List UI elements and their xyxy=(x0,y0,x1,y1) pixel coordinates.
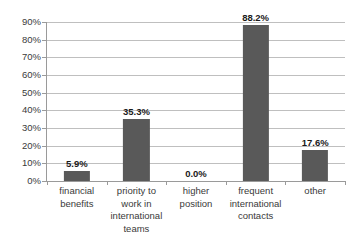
bar[interactable] xyxy=(242,25,268,181)
y-axis-tick-mark xyxy=(42,57,47,58)
bar-value-label: 88.2% xyxy=(242,13,269,23)
x-axis-tick-mark xyxy=(285,181,286,185)
x-axis-label-line: priority to xyxy=(107,185,167,198)
bar-slot[interactable]: 17.6% xyxy=(285,22,345,181)
y-axis-tick-label: 70% xyxy=(3,52,41,62)
x-axis-category-label: frequentinternationalcontacts xyxy=(226,185,286,223)
x-axis-category-label: financialbenefits xyxy=(47,185,107,210)
y-axis-tick-mark xyxy=(42,110,47,111)
y-axis-tick-label: 60% xyxy=(3,70,41,80)
bar-slot[interactable]: 5.9% xyxy=(47,22,107,181)
y-axis-tick-label: 20% xyxy=(3,141,41,151)
x-axis-label-line: other xyxy=(285,185,345,198)
bar-slot[interactable]: 35.3% xyxy=(107,22,167,181)
x-axis-label-line: benefits xyxy=(47,198,107,211)
plot-area: 5.9%35.3%0.0%88.2%17.6% xyxy=(47,22,345,181)
x-axis-label-line: contacts xyxy=(226,210,286,223)
x-axis-category-label: other xyxy=(285,185,345,198)
bar-chart: 0%10%20%30%40%50%60%70%80%90% 5.9%35.3%0… xyxy=(0,0,358,251)
y-axis-tick-mark xyxy=(42,75,47,76)
y-axis-tick-mark xyxy=(42,22,47,23)
x-axis-label-line: work in xyxy=(107,198,167,211)
x-axis-label-line: teams xyxy=(107,223,167,236)
x-axis-tick-mark xyxy=(107,181,108,185)
bar-value-label: 5.9% xyxy=(66,159,88,169)
y-axis-tick-label: 80% xyxy=(3,35,41,45)
y-axis-tick-mark xyxy=(42,146,47,147)
x-axis-tick-mark xyxy=(345,181,346,185)
y-axis-tick-label: 40% xyxy=(3,105,41,115)
x-axis-label-line: international xyxy=(107,210,167,223)
x-axis-label-line: financial xyxy=(47,185,107,198)
y-axis-tick-label: 90% xyxy=(3,17,41,27)
gridline xyxy=(47,181,345,182)
x-axis-category-label: priority towork ininternationalteams xyxy=(107,185,167,235)
x-axis-label-line: higher xyxy=(166,185,226,198)
x-axis-tick-mark xyxy=(226,181,227,185)
y-axis-tick-mark xyxy=(42,163,47,164)
x-axis-tick-mark xyxy=(47,181,48,185)
x-axis-label-line: position xyxy=(166,198,226,211)
y-axis-tick-label: 30% xyxy=(3,123,41,133)
bar-value-label: 0.0% xyxy=(185,169,207,179)
x-axis-category-label: higherposition xyxy=(166,185,226,210)
bar-value-label: 17.6% xyxy=(302,138,329,148)
bar-slot[interactable]: 0.0% xyxy=(166,22,226,181)
x-axis-label-line: frequent xyxy=(226,185,286,198)
bar[interactable] xyxy=(123,119,149,181)
y-axis-tick-label: 50% xyxy=(3,88,41,98)
x-axis-label-line: international xyxy=(226,198,286,211)
y-axis-tick-labels: 0%10%20%30%40%50%60%70%80%90% xyxy=(0,0,41,251)
x-axis-tick-mark xyxy=(166,181,167,185)
bar[interactable] xyxy=(64,171,90,181)
y-axis-tick-mark xyxy=(42,40,47,41)
bar-value-label: 35.3% xyxy=(123,107,150,117)
bar[interactable] xyxy=(302,150,328,181)
y-axis-tick-label: 10% xyxy=(3,158,41,168)
y-axis-tick-mark xyxy=(42,93,47,94)
bar-slot[interactable]: 88.2% xyxy=(226,22,286,181)
y-axis-tick-mark xyxy=(42,128,47,129)
y-axis-tick-label: 0% xyxy=(3,176,41,186)
x-axis-category-labels: financialbenefitspriority towork ininter… xyxy=(47,185,345,247)
